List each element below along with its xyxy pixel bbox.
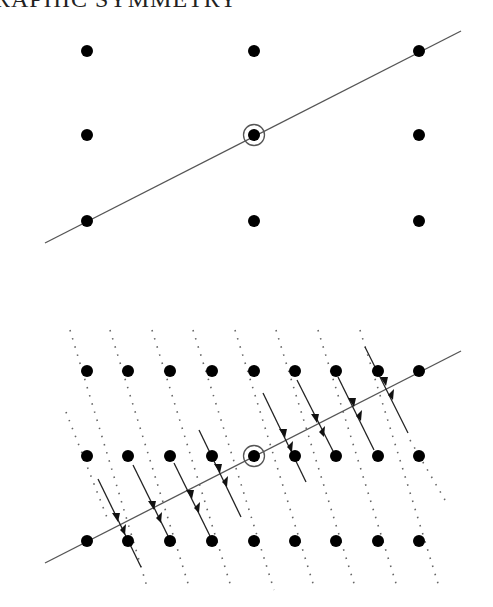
lattice-points — [81, 45, 425, 227]
symmetry-diagrams — [0, 0, 493, 607]
lattice-points — [81, 365, 425, 547]
top-lattice-diagram — [45, 31, 461, 243]
bottom-lattice-diagram — [45, 330, 461, 590]
